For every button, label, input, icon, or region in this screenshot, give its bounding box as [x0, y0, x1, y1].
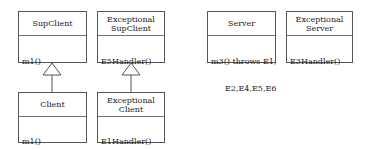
inheritance-triangle-icon	[122, 63, 140, 75]
generalization-client-supclient	[43, 63, 61, 92]
inheritance-triangle-icon	[43, 63, 61, 75]
generalization-connectors	[0, 0, 370, 150]
generalization-exceptional-client-exceptional-supclient	[122, 63, 140, 92]
